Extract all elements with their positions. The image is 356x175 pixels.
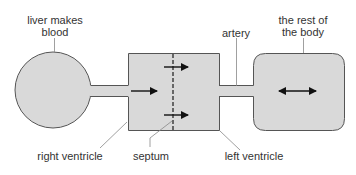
label-rest-line1: the rest of (270, 14, 336, 26)
label-rest-line2: the body (270, 26, 336, 38)
label-right-ventricle: right ventricle (30, 150, 110, 162)
artery-tube (219, 86, 255, 97)
label-liver-line2: blood (22, 26, 88, 38)
leader-left-ventricle (220, 131, 240, 150)
label-liver-line1: liver makes (22, 14, 88, 26)
liver-to-heart-tube (90, 85, 130, 97)
label-liver: liver makes blood (22, 14, 88, 38)
label-rest-of-body: the rest of the body (270, 14, 336, 38)
liver-circle (15, 52, 91, 128)
leader-right-ventricle (100, 122, 127, 148)
label-artery: artery (214, 27, 258, 39)
rest-of-body-box (252, 54, 345, 131)
label-left-ventricle: left ventricle (216, 150, 292, 162)
label-septum: septum (128, 150, 174, 162)
